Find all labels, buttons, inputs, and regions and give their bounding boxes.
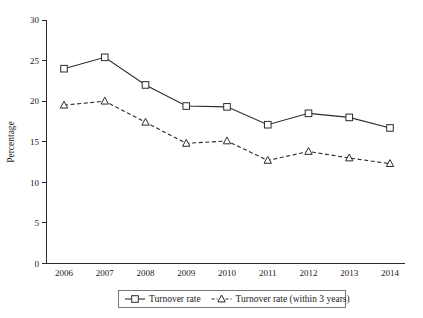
legend-label: Turnover rate (within 3 years): [236, 294, 350, 305]
data-point-square: [132, 296, 139, 303]
x-tick-label: 2010: [218, 268, 237, 278]
y-tick-label: 10: [30, 178, 40, 188]
x-tick-label: 2012: [300, 268, 318, 278]
x-tick-label: 2013: [340, 268, 359, 278]
y-tick-label: 20: [30, 96, 40, 106]
y-tick-label: 25: [30, 56, 40, 66]
data-point-square: [224, 104, 231, 111]
chart-legend: Turnover rateTurnover rate (within 3 yea…: [119, 291, 350, 308]
x-tick-label: 2008: [137, 268, 156, 278]
x-tick-label: 2009: [177, 268, 196, 278]
x-tick-label: 2006: [55, 268, 74, 278]
y-tick-label: 0: [35, 259, 40, 269]
legend-label: Turnover rate: [149, 294, 201, 304]
data-point-square: [305, 110, 312, 117]
x-tick-label: 2014: [381, 268, 400, 278]
data-point-square: [183, 103, 190, 110]
chart-canvas: Percentage 051015202530 2006200720082009…: [0, 0, 423, 318]
data-point-square: [387, 125, 394, 132]
series-layer: [60, 54, 393, 167]
data-point-square: [142, 82, 149, 89]
y-axis-ticks: 051015202530: [30, 15, 47, 269]
data-point-square: [346, 114, 353, 121]
y-axis-title: Percentage: [6, 121, 16, 163]
data-point-triangle: [142, 118, 149, 125]
data-point-triangle: [305, 147, 312, 154]
x-tick-label: 2011: [259, 268, 277, 278]
data-point-square: [264, 121, 271, 128]
line-chart-figure: Percentage 051015202530 2006200720082009…: [0, 0, 423, 318]
data-point-triangle: [101, 97, 108, 104]
x-axis-ticks: 200620072008200920102011201220132014: [55, 268, 400, 278]
y-tick-label: 15: [30, 137, 40, 147]
y-tick-label: 5: [35, 218, 40, 228]
series-line: [64, 57, 390, 128]
x-tick-label: 2007: [96, 268, 115, 278]
data-point-square: [101, 54, 108, 61]
data-point-triangle: [223, 137, 230, 144]
data-point-square: [61, 65, 68, 72]
y-tick-label: 30: [30, 15, 40, 25]
series-1: [61, 54, 394, 131]
